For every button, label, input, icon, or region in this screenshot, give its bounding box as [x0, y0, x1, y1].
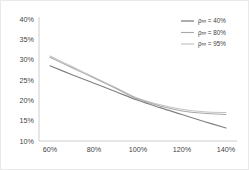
chart-legend: ρ∞ = 40%ρ∞ = 80%ρ∞ = 95%	[181, 17, 226, 48]
x-tick-label: 80%	[87, 145, 102, 154]
y-tick-label: 20%	[20, 96, 35, 105]
series-line	[50, 66, 226, 128]
x-tick-label: 100%	[129, 145, 148, 154]
legend-label: ρ∞ = 80%	[198, 29, 226, 37]
y-tick-label: 30%	[20, 55, 35, 64]
data-series-group	[50, 56, 226, 128]
series-line	[50, 56, 226, 113]
line-chart: 10%15%20%25%30%35%40% 60%80%100%120%140%…	[1, 1, 249, 170]
x-tick-label: 120%	[173, 145, 192, 154]
x-tick-label: 140%	[217, 145, 236, 154]
legend-label: ρ∞ = 40%	[198, 17, 226, 25]
y-axis-tick-labels: 10%15%20%25%30%35%40%	[20, 15, 35, 146]
series-line	[50, 57, 226, 114]
y-tick-label: 40%	[20, 15, 35, 24]
y-tick-label: 15%	[20, 116, 35, 125]
x-tick-label: 60%	[43, 145, 58, 154]
y-tick-label: 25%	[20, 76, 35, 85]
y-tick-label: 35%	[20, 35, 35, 44]
chart-figure: 10%15%20%25%30%35%40% 60%80%100%120%140%…	[0, 0, 249, 170]
y-tick-label: 10%	[20, 137, 35, 146]
x-axis-tick-labels: 60%80%100%120%140%	[43, 145, 236, 154]
legend-label: ρ∞ = 95%	[198, 40, 226, 48]
